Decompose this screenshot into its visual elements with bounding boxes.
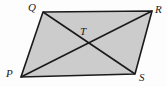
- vertex-label-p: P: [6, 68, 13, 79]
- vertex-label-r: R: [155, 4, 162, 15]
- geometry-figure: Q R T P S: [0, 0, 167, 87]
- vertex-label-s: S: [139, 72, 145, 83]
- vertex-label-q: Q: [28, 2, 36, 13]
- vertex-label-t: T: [80, 26, 86, 37]
